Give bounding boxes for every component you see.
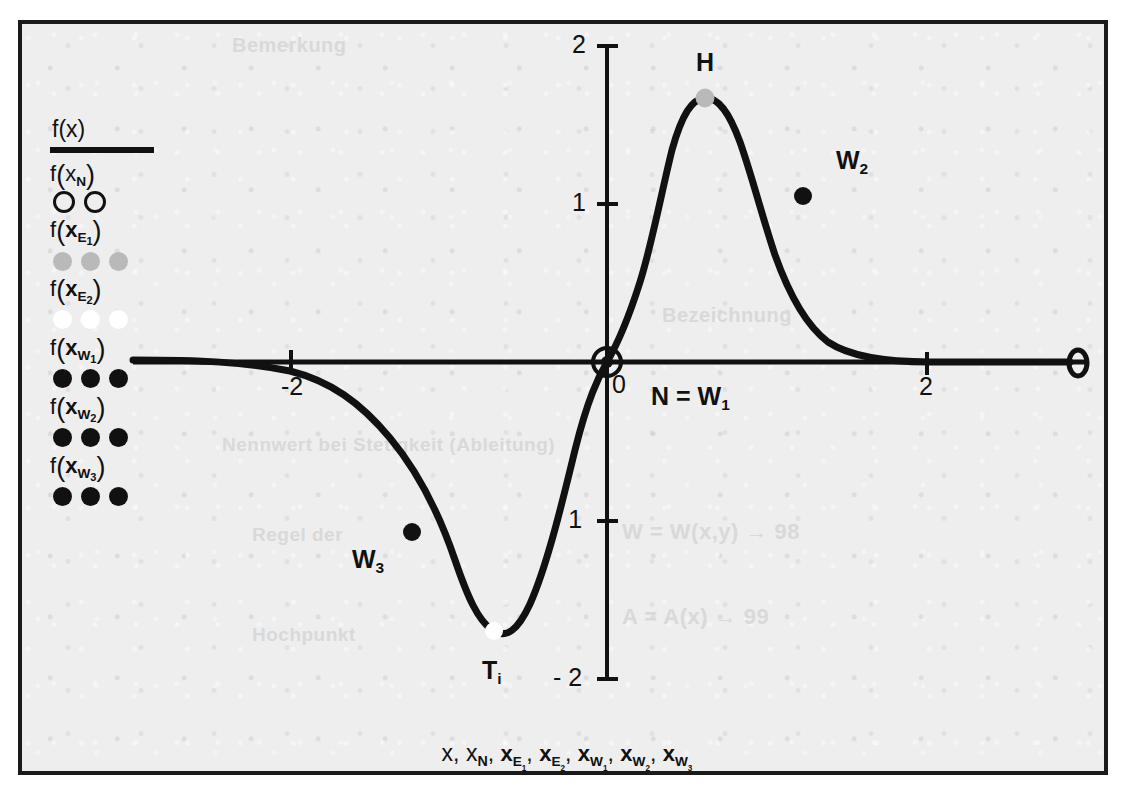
y-tick-label-1: 1 <box>572 188 586 217</box>
annotation-W2-label: W <box>836 146 860 174</box>
marker-Ti <box>485 622 503 640</box>
annotation-W3-label: W <box>352 545 376 573</box>
annotation-W2-sub: 2 <box>860 160 869 177</box>
annotation-Ti-sub: i <box>497 670 501 687</box>
x-tick-label--2: -2 <box>281 372 303 401</box>
annotation-W3: W3 <box>352 545 384 577</box>
annotation-W2: W2 <box>836 146 868 178</box>
annotation-N-W1-sub: 1 <box>721 396 730 413</box>
x-tick-label-2: 2 <box>919 372 933 401</box>
annotation-N-W1: N = W1 <box>651 382 730 414</box>
marker-H <box>696 89 714 107</box>
annotation-W3-sub: 3 <box>376 559 385 576</box>
figure-page: Bemerkung Bezeichnung Nennwert bei Steti… <box>0 0 1132 798</box>
y-tick-label-2: 2 <box>572 30 586 59</box>
marker-W3 <box>403 523 421 541</box>
y-tick-label-0: 0 <box>612 370 626 399</box>
annotation-Ti: Ti <box>482 656 502 688</box>
y-tick-label--2: - 2 <box>553 663 582 692</box>
marker-N-W1-dot <box>601 356 613 368</box>
marker-W2 <box>794 187 812 205</box>
y-tick-label--1: - 1 <box>553 505 582 534</box>
annotation-H: H <box>696 48 714 77</box>
annotation-Ti-label: T <box>482 656 497 684</box>
annotation-H-label: H <box>696 48 714 76</box>
function-curve <box>133 98 1070 634</box>
annotation-N-W1-label: N = W <box>651 382 721 410</box>
